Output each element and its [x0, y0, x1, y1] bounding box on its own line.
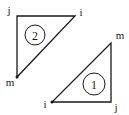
element-2-node-j-label: j — [6, 4, 10, 16]
element-1-node-m-label: m — [116, 29, 125, 41]
element-2-node-i-label: i — [79, 6, 82, 18]
element-2-triangle — [17, 16, 75, 77]
element-2: 2 j i m — [6, 4, 83, 88]
element-1-node-j-label: j — [113, 101, 117, 113]
element-1: 1 i j m — [43, 29, 124, 113]
element-1-node-i-label: i — [43, 98, 46, 110]
triangle-elements-figure: 2 j i m 1 i j m — [0, 0, 129, 115]
element-1-triangle — [52, 43, 111, 102]
element-2-node-m-dot — [16, 76, 19, 79]
element-1-number: 1 — [91, 78, 97, 92]
diagram-canvas: 2 j i m 1 i j m — [0, 0, 129, 115]
element-2-node-m-label: m — [6, 76, 15, 88]
element-2-number: 2 — [32, 29, 38, 43]
element-1-node-i-dot — [51, 101, 54, 104]
